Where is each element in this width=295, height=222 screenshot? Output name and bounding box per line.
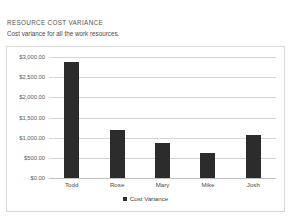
y-axis-tick-label: $2,500.00	[19, 74, 45, 81]
y-axis-tick-label: $1,000.00	[19, 134, 45, 141]
y-axis-labels: $0.00$500.00$1,000.00$1,500.00$2,000.00$…	[7, 57, 47, 178]
bar-mary[interactable]	[155, 143, 170, 178]
y-axis-tick-label: $2,000.00	[19, 94, 45, 101]
x-axis-tick-label: Mary	[140, 181, 185, 188]
legend-swatch-icon	[123, 197, 127, 201]
legend-label: Cost Variance	[130, 195, 168, 202]
bar-slot	[185, 57, 230, 178]
bar-mike[interactable]	[200, 153, 215, 178]
y-axis-tick-label: $500.00	[24, 154, 45, 161]
x-axis-tick-label: Todd	[49, 181, 94, 188]
page-title: RESOURCE COST VARIANCE	[7, 18, 287, 27]
bar-slot	[49, 57, 94, 178]
gridline	[49, 178, 276, 179]
bar-rose[interactable]	[110, 130, 125, 178]
page-subtitle: Cost variance for all the work resources…	[7, 29, 287, 38]
y-axis-tick-label: $0.00	[30, 175, 45, 182]
report-header: RESOURCE COST VARIANCE Cost variance for…	[7, 18, 287, 38]
chart-container: $0.00$500.00$1,000.00$1,500.00$2,000.00$…	[6, 46, 285, 212]
x-axis-tick-label: Josh	[231, 181, 276, 188]
plot-area	[49, 57, 276, 178]
bar-slot	[140, 57, 185, 178]
x-axis-labels: ToddRoseMaryMikeJosh	[49, 181, 276, 188]
bar-todd[interactable]	[64, 62, 79, 178]
x-axis-tick-label: Rose	[94, 181, 139, 188]
bar-josh[interactable]	[246, 135, 261, 178]
y-axis-tick-label: $3,000.00	[19, 54, 45, 61]
bar-slot	[94, 57, 139, 178]
bar-series	[49, 57, 276, 178]
y-axis-tick-label: $1,500.00	[19, 114, 45, 121]
bar-slot	[231, 57, 276, 178]
x-axis-tick-label: Mike	[185, 181, 230, 188]
chart-legend: Cost Variance	[7, 195, 284, 202]
